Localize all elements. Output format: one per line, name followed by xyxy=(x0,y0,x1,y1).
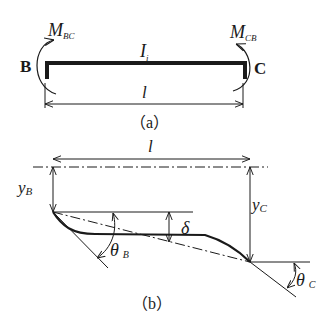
caption-b: （b） xyxy=(132,295,172,312)
theta-c-arc-icon xyxy=(287,263,296,288)
stiffness-label: Ii xyxy=(139,41,149,63)
theta-b-label: θB xyxy=(110,240,129,260)
span-label-b: l xyxy=(148,137,153,156)
moment-bc-label: MBC xyxy=(47,20,75,41)
beam-bc xyxy=(47,63,245,79)
yc-label: yC xyxy=(250,195,268,214)
figure-b: l yB yC θB δ xyxy=(16,137,316,312)
figure-a: B C MBC MCB Ii l （a） xyxy=(20,20,266,131)
yb-label: yB xyxy=(16,178,33,197)
caption-a: （a） xyxy=(130,114,169,131)
theta-c-label: θC xyxy=(296,270,316,290)
span-label-a: l xyxy=(142,83,147,102)
tangent-c xyxy=(250,262,296,297)
delta-label: δ xyxy=(181,218,190,238)
tangent-b xyxy=(53,212,108,268)
moment-arrow-cb-icon xyxy=(233,44,250,91)
beam-diagram: B C MBC MCB Ii l （a） l yB yC xyxy=(0,0,331,324)
chord-line xyxy=(53,212,250,262)
moment-cb-label: MCB xyxy=(229,22,257,43)
node-b-label: B xyxy=(20,57,31,76)
node-c-label: C xyxy=(254,59,266,78)
